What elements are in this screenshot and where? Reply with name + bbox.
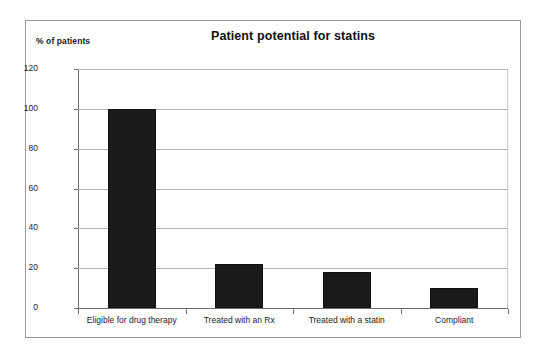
bar[interactable] [323,272,371,308]
y-tick-label-20: 20 [29,263,38,272]
y-tick-label-80: 80 [29,144,38,153]
y-tick-label-120: 120 [24,64,38,73]
x-tick-mark [78,309,79,314]
y-tick-mark-80 [74,149,78,150]
gridline-120 [78,69,508,70]
plot-area [78,69,508,308]
chart-title: Patient potential for statins [78,29,508,43]
y-tick-label-60: 60 [29,184,38,193]
y-tick-mark-120 [74,69,78,70]
x-tick-mark [401,309,402,314]
x-tick-label: Treated with an Rx [186,316,294,325]
bar[interactable] [430,288,478,308]
y-tick-mark-100 [74,109,78,110]
y-tick-label-0: 0 [33,303,38,312]
x-tick-label: Eligible for drug therapy [78,316,186,325]
y-tick-label-100: 100 [24,104,38,113]
y-tick-mark-20 [74,268,78,269]
y-tick-label-40: 40 [29,223,38,232]
x-tick-mark [186,309,187,314]
chart-figure: % of patients Patient potential for stat… [0,0,547,364]
y-tick-mark-60 [74,189,78,190]
x-tick-mark [293,309,294,314]
y-tick-mark-40 [74,228,78,229]
x-tick-label: Compliant [401,316,509,325]
x-tick-mark [508,309,509,314]
bar[interactable] [108,109,156,308]
x-tick-label: Treated with a statin [293,316,401,325]
bar[interactable] [215,264,263,308]
